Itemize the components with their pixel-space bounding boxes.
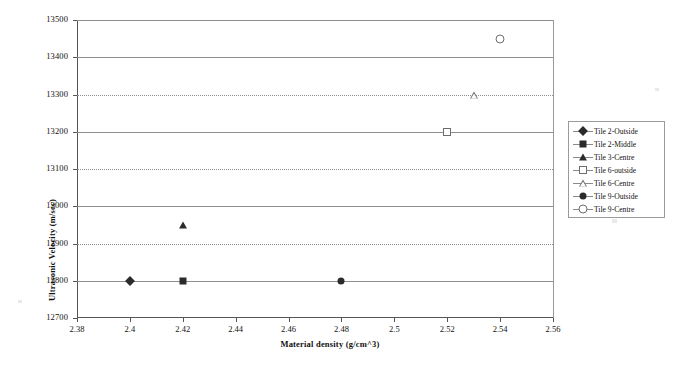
y-tick-mark bbox=[73, 95, 77, 96]
x-tick-label: 2.54 bbox=[480, 324, 520, 334]
legend-marker-cell bbox=[572, 190, 594, 203]
y-tick-label: 13100 bbox=[8, 164, 68, 173]
y-tick-label: 13000 bbox=[8, 201, 68, 210]
y-axis-title-wrapper: Ultrasonic Velocity (m/sec) bbox=[22, 95, 36, 255]
legend-label: Tile 6-outside bbox=[594, 166, 636, 175]
y-axis-title: Ultrasonic Velocity (m/sec) bbox=[47, 160, 57, 340]
y-tick-label: 13200 bbox=[8, 127, 68, 136]
y-tick-label: 12700 bbox=[8, 313, 68, 322]
legend[interactable]: Tile 2-OutsideTile 2-MiddleTile 3-Centre… bbox=[568, 121, 665, 218]
x-tick-mark bbox=[341, 318, 342, 322]
legend-item[interactable]: Tile 6-Centre bbox=[572, 177, 662, 190]
legend-marker-cell bbox=[572, 138, 594, 151]
legend-label: Tile 9-Centre bbox=[594, 205, 634, 214]
x-tick-mark bbox=[447, 318, 448, 322]
x-tick-mark bbox=[183, 318, 184, 322]
legend-marker-cell bbox=[572, 203, 594, 216]
legend-label: Tile 9-Outside bbox=[594, 192, 638, 201]
x-tick-mark bbox=[553, 318, 554, 322]
gridline bbox=[77, 206, 553, 207]
y-tick-mark bbox=[73, 20, 77, 21]
y-tick-mark bbox=[73, 132, 77, 133]
legend-label: Tile 3-Centre bbox=[594, 153, 634, 162]
legend-marker-square-open bbox=[579, 166, 587, 174]
gridline bbox=[77, 281, 553, 282]
y-tick-label: 13500 bbox=[8, 15, 68, 24]
x-tick-label: 2.46 bbox=[269, 324, 309, 334]
y-tick-label: 13300 bbox=[8, 90, 68, 99]
data-point bbox=[470, 91, 478, 98]
y-tick-mark bbox=[73, 57, 77, 58]
legend-marker-cell bbox=[572, 164, 594, 177]
data-point bbox=[179, 277, 186, 284]
legend-label: Tile 2-Outside bbox=[594, 127, 638, 136]
legend-label: Tile 2-Middle bbox=[594, 140, 636, 149]
scan-speckle bbox=[18, 300, 22, 303]
y-tick-label: 13400 bbox=[8, 52, 68, 61]
legend-marker-circle-filled bbox=[580, 193, 587, 200]
data-point bbox=[338, 277, 345, 284]
scan-speckle bbox=[612, 219, 617, 223]
gridline bbox=[77, 95, 553, 96]
gridline bbox=[77, 244, 553, 245]
x-tick-mark bbox=[289, 318, 290, 322]
y-tick-mark bbox=[73, 244, 77, 245]
legend-marker-diamond-filled bbox=[578, 126, 588, 136]
x-tick-mark bbox=[394, 318, 395, 322]
gridline bbox=[77, 132, 553, 133]
x-tick-label: 2.4 bbox=[110, 324, 150, 334]
x-tick-mark bbox=[500, 318, 501, 322]
scatter-chart: 1270012800129001300013100132001330013400… bbox=[0, 0, 676, 366]
legend-item[interactable]: Tile 9-Centre bbox=[572, 203, 662, 216]
y-tick-label: 12900 bbox=[8, 239, 68, 248]
x-tick-mark bbox=[130, 318, 131, 322]
legend-item[interactable]: Tile 2-Outside bbox=[572, 125, 662, 138]
plot-right-border bbox=[553, 20, 554, 318]
legend-marker-circle-open bbox=[579, 205, 588, 214]
legend-marker-triangle-open bbox=[579, 180, 587, 187]
legend-marker-cell bbox=[572, 177, 594, 190]
x-tick-label: 2.48 bbox=[321, 324, 361, 334]
scan-speckle bbox=[655, 88, 659, 91]
x-tick-label: 2.44 bbox=[216, 324, 256, 334]
legend-label: Tile 6-Centre bbox=[594, 179, 634, 188]
data-point bbox=[496, 34, 505, 43]
y-tick-label: 12800 bbox=[8, 276, 68, 285]
x-tick-label: 2.52 bbox=[427, 324, 467, 334]
gridline bbox=[77, 20, 553, 21]
x-tick-label: 2.5 bbox=[374, 324, 414, 334]
legend-item[interactable]: Tile 6-outside bbox=[572, 164, 662, 177]
legend-marker-cell bbox=[572, 125, 594, 138]
legend-marker-square-filled bbox=[580, 141, 587, 148]
data-point bbox=[179, 221, 187, 228]
legend-item[interactable]: Tile 9-Outside bbox=[572, 190, 662, 203]
legend-marker-cell bbox=[572, 151, 594, 164]
legend-item[interactable]: Tile 3-Centre bbox=[572, 151, 662, 164]
x-tick-label: 2.56 bbox=[533, 324, 573, 334]
y-tick-mark bbox=[73, 206, 77, 207]
legend-marker-triangle-filled bbox=[579, 154, 587, 161]
x-tick-label: 2.42 bbox=[163, 324, 203, 334]
legend-item[interactable]: Tile 2-Middle bbox=[572, 138, 662, 151]
x-tick-mark bbox=[77, 318, 78, 322]
data-point bbox=[443, 128, 451, 136]
gridline bbox=[77, 169, 553, 170]
gridline bbox=[77, 57, 553, 58]
y-tick-mark bbox=[73, 169, 77, 170]
x-axis-title: Material density (g/cm^3) bbox=[180, 339, 480, 349]
x-tick-mark bbox=[236, 318, 237, 322]
y-tick-mark bbox=[73, 281, 77, 282]
x-tick-label: 2.38 bbox=[57, 324, 97, 334]
